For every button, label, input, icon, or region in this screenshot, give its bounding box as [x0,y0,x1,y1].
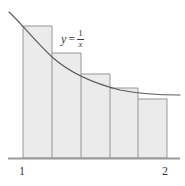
figure-container: 1 2 y = 1 x [0,0,185,186]
x-tick-label-2: 2 [162,165,168,177]
equation-equals-sign: = [67,33,77,45]
shaded-rectangles-region [23,26,167,158]
fraction-denominator: x [78,40,84,49]
x-tick-label-1: 1 [19,165,25,177]
riemann-sum-figure [0,0,185,186]
curve-equation-label: y = 1 x [61,29,84,49]
equation-fraction: 1 x [77,29,84,49]
fraction-numerator: 1 [77,29,84,38]
